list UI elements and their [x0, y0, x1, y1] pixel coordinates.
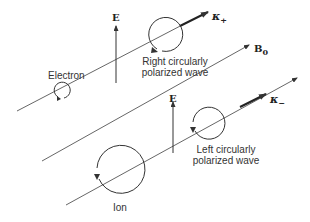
- e-field-label-top: E: [112, 12, 120, 23]
- electron-rotation-icon: [54, 82, 70, 101]
- kappa-minus-label: κ−: [270, 94, 285, 106]
- left-wave-label-line2: polarized wave: [184, 155, 268, 166]
- ion-label: Ion: [113, 202, 127, 213]
- e-field-label-bottom: E: [169, 93, 177, 104]
- electron-label: Electron: [48, 70, 85, 81]
- diagram-canvas: [0, 0, 310, 222]
- kappa-minus-arrow: [240, 94, 266, 107]
- right-wave-label: Right circularly polarized wave: [130, 56, 220, 78]
- kappa-plus-subscript: +: [220, 15, 227, 25]
- kappa-plus-symbol: κ: [212, 10, 220, 23]
- ion-rotation-icon: [94, 145, 145, 193]
- b0-subscript: 0: [262, 47, 268, 57]
- right-rotation-icon: [149, 17, 183, 53]
- b0-label: B0: [254, 43, 268, 55]
- kappa-plus-arrow: [180, 12, 208, 26]
- kappa-plus-label: κ+: [212, 11, 227, 23]
- kappa-minus-symbol: κ: [270, 93, 278, 106]
- field-line-bottom: [66, 78, 297, 205]
- right-wave-label-line1: Right circularly: [130, 56, 220, 67]
- right-wave-label-line2: polarized wave: [130, 67, 220, 78]
- left-wave-label-line1: Left circularly: [184, 144, 268, 155]
- left-wave-label: Left circularly polarized wave: [184, 144, 268, 166]
- kappa-minus-subscript: −: [278, 98, 285, 108]
